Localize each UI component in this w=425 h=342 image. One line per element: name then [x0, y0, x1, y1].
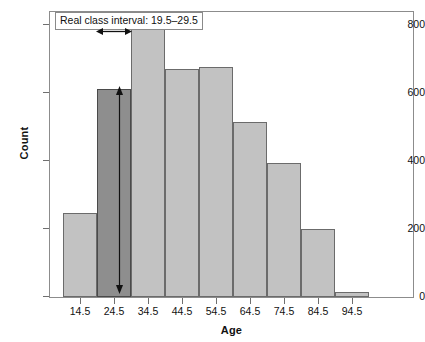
y-tick-mark-400: [43, 160, 49, 161]
class-width-double-arrow-icon: [96, 26, 132, 37]
y-tick-label-600: 600: [391, 87, 425, 98]
x-tick-mark-84-5: [318, 298, 319, 304]
x-tick-mark-94-5: [352, 298, 353, 304]
bar-height-double-arrow-icon: [113, 86, 126, 294]
y-tick-label-0: 0: [391, 291, 425, 302]
x-tick-mark-54-5: [216, 298, 217, 304]
x-tick-mark-74-5: [284, 298, 285, 304]
x-tick-label-94-5: 94.5: [329, 306, 375, 317]
y-tick-mark-800: [43, 24, 49, 25]
x-tick-mark-14-5: [80, 298, 81, 304]
x-tick-mark-64-5: [250, 298, 251, 304]
x-tick-mark-34-5: [148, 298, 149, 304]
y-axis-title: Count: [18, 113, 30, 173]
y-tick-mark-200: [43, 228, 49, 229]
y-tick-label-400: 400: [391, 155, 425, 166]
y-tick-mark-600: [43, 92, 49, 93]
x-tick-mark-24-5: [114, 298, 115, 304]
y-tick-label-800: 800: [391, 19, 425, 30]
plot-area: [49, 11, 414, 298]
x-tick-mark-44-5: [182, 298, 183, 304]
y-tick-label-200: 200: [391, 223, 425, 234]
x-axis-title: Age: [49, 324, 414, 336]
histogram-chart: Count 0 200 400 600 800 14.5 24.5 34.5 4…: [0, 0, 425, 342]
y-tick-mark-0: [43, 296, 49, 297]
